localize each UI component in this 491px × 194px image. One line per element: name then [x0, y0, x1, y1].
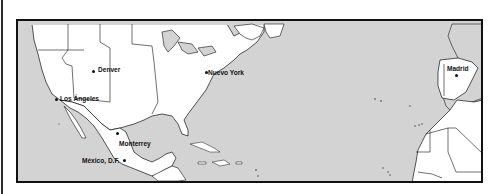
africa-landmass	[412, 100, 481, 181]
city-label-madrid: Madrid	[447, 64, 469, 73]
city-dot-madrid	[455, 74, 458, 77]
city-label-nuevo-york: Nuevo York	[208, 68, 244, 77]
city-label-los-angeles: Los Ángeles	[60, 94, 99, 103]
city-dot-denver	[92, 70, 95, 73]
city-label-monterrey: Monterrey	[119, 139, 151, 148]
usa-landmass	[32, 24, 264, 136]
city-dot-los-angeles	[55, 98, 58, 101]
map-frame[interactable]: Denver Nuevo York Los Ángeles Monterrey …	[16, 19, 483, 183]
city-label-denver: Denver	[98, 65, 120, 74]
city-dot-monterrey	[116, 132, 119, 135]
left-edge-rule	[1, 0, 3, 194]
city-dot-mexico-df	[123, 159, 126, 162]
city-label-mexico-df: México, D.F.	[82, 156, 120, 165]
caribbean-islands	[190, 142, 242, 166]
